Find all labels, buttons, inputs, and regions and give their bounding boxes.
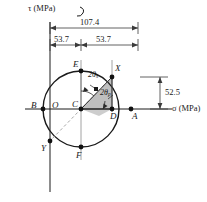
point-marker-B <box>41 107 46 112</box>
point-marker-X <box>110 75 115 80</box>
dim-half-right-arrow-end <box>132 43 138 48</box>
tau-axis-arrowhead <box>77 7 84 16</box>
dim-half-right-arrow-start <box>81 43 87 48</box>
point-label-Y: Y <box>41 144 46 153</box>
dimension-vertical-label: 52.5 <box>165 88 180 97</box>
dim-total-arrow-right <box>132 26 138 31</box>
angle-vertex-marker <box>94 87 98 91</box>
tau-axis-label: τ (MPa) <box>28 4 55 13</box>
angle-2theta-p-label: 2θp <box>100 89 111 98</box>
point-label-O: O <box>52 101 59 110</box>
shaded-wedge-lower <box>81 109 112 116</box>
point-label-E: E <box>73 60 79 69</box>
point-marker-E <box>79 69 84 74</box>
mohrs-circle-figure: τ (MPa) σ (MPa) 107.4 53.7 53.7 52.5 2θs… <box>0 0 207 202</box>
point-label-C: C <box>72 100 78 109</box>
point-marker-Y <box>48 139 53 144</box>
dim-vertical-arrow-bottom <box>158 103 163 109</box>
angle-2theta-s-label: 2θs <box>88 71 98 80</box>
dimension-right-half-label: 53.7 <box>96 35 111 44</box>
sigma-axis-label: σ (MPa) <box>172 104 200 113</box>
dim-total-arrow-left <box>50 26 56 31</box>
angle-2theta-s-subscript: s <box>96 73 98 79</box>
angle-2theta-p-subscript: p <box>108 91 111 97</box>
point-label-F: F <box>76 151 82 160</box>
point-label-D: D <box>110 112 117 121</box>
dim-half-left-arrow-end <box>75 43 81 48</box>
angle-2theta-s-prefix: 2θ <box>88 70 96 79</box>
point-marker-C <box>79 107 84 112</box>
point-label-A: A <box>132 112 138 121</box>
angle-2theta-p-prefix: 2θ <box>100 88 108 97</box>
point-label-X: X <box>115 64 121 73</box>
point-marker-F <box>79 145 84 150</box>
dimension-total-label: 107.4 <box>80 18 99 27</box>
angle-2theta-s-arc <box>81 91 94 96</box>
dimension-left-half-label: 53.7 <box>54 35 69 44</box>
point-label-B: B <box>31 101 37 110</box>
dim-vertical-arrow-top <box>158 77 163 83</box>
